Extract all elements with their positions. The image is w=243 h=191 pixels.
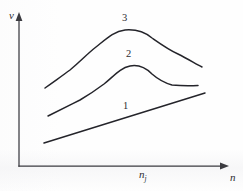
y-axis-label: v: [9, 10, 14, 21]
x-axis-label: n: [230, 172, 236, 183]
figure-container: v n nj 3 2 1: [0, 0, 243, 191]
x-axis-marker-subscript: j: [145, 174, 147, 183]
x-axis-arrow-icon: [220, 163, 229, 170]
curve-label-1: 1: [123, 101, 128, 112]
curve-label-2: 2: [126, 49, 131, 60]
curve-label-3: 3: [122, 13, 127, 24]
curve-3: [45, 30, 202, 88]
x-axis-marker-label: nj: [139, 169, 147, 183]
y-axis-arrow-icon: [16, 12, 23, 21]
plot-canvas: [0, 0, 243, 191]
